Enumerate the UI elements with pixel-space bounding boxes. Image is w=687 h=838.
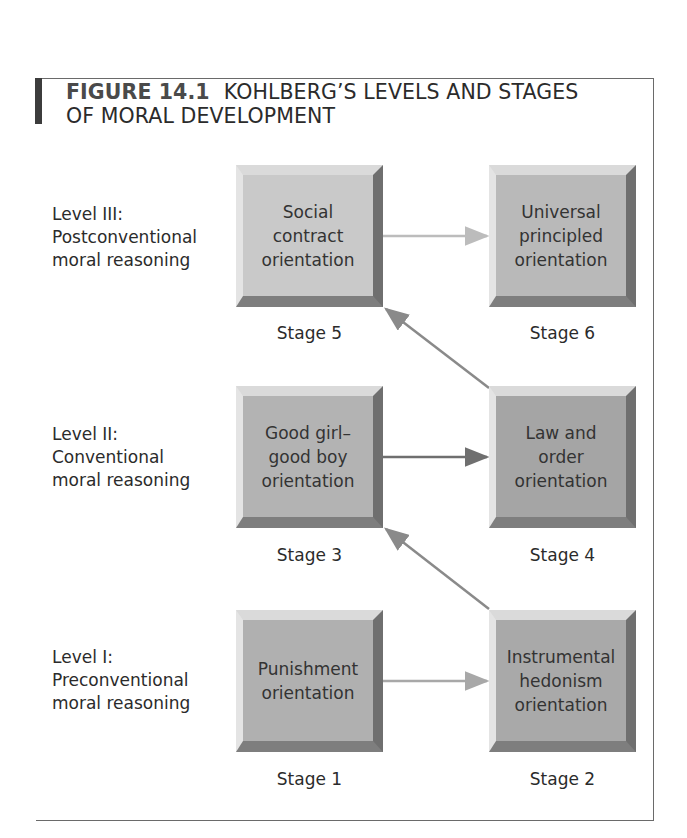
stage-3-text: Good girl– good boy orientation: [262, 421, 355, 493]
stage-4-box: Law and order orientation: [489, 386, 636, 528]
stage-1-label: Stage 1: [236, 769, 383, 789]
stage-1-text: Punishment orientation: [258, 657, 358, 705]
arrow-stage2-to-stage3: [386, 529, 489, 609]
stage-3-label: Stage 3: [236, 545, 383, 565]
arrow-stage4-to-stage5: [386, 309, 489, 388]
stage-4-label: Stage 4: [489, 545, 636, 565]
stage-5-text: Social contract orientation: [262, 200, 355, 272]
stage-2-box: Instrumental hedonism orientation: [489, 610, 636, 752]
stage-2-text: Instrumental hedonism orientation: [507, 645, 616, 717]
stage-4-text: Law and order orientation: [515, 421, 608, 493]
stage-3-box: Good girl– good boy orientation: [236, 386, 383, 528]
stage-5-box: Social contract orientation: [236, 165, 383, 307]
stage-1-box: Punishment orientation: [236, 610, 383, 752]
stage-5-label: Stage 5: [236, 323, 383, 343]
stage-6-text: Universal principled orientation: [515, 200, 608, 272]
stage-6-label: Stage 6: [489, 323, 636, 343]
stage-2-label: Stage 2: [489, 769, 636, 789]
stage-6-box: Universal principled orientation: [489, 165, 636, 307]
